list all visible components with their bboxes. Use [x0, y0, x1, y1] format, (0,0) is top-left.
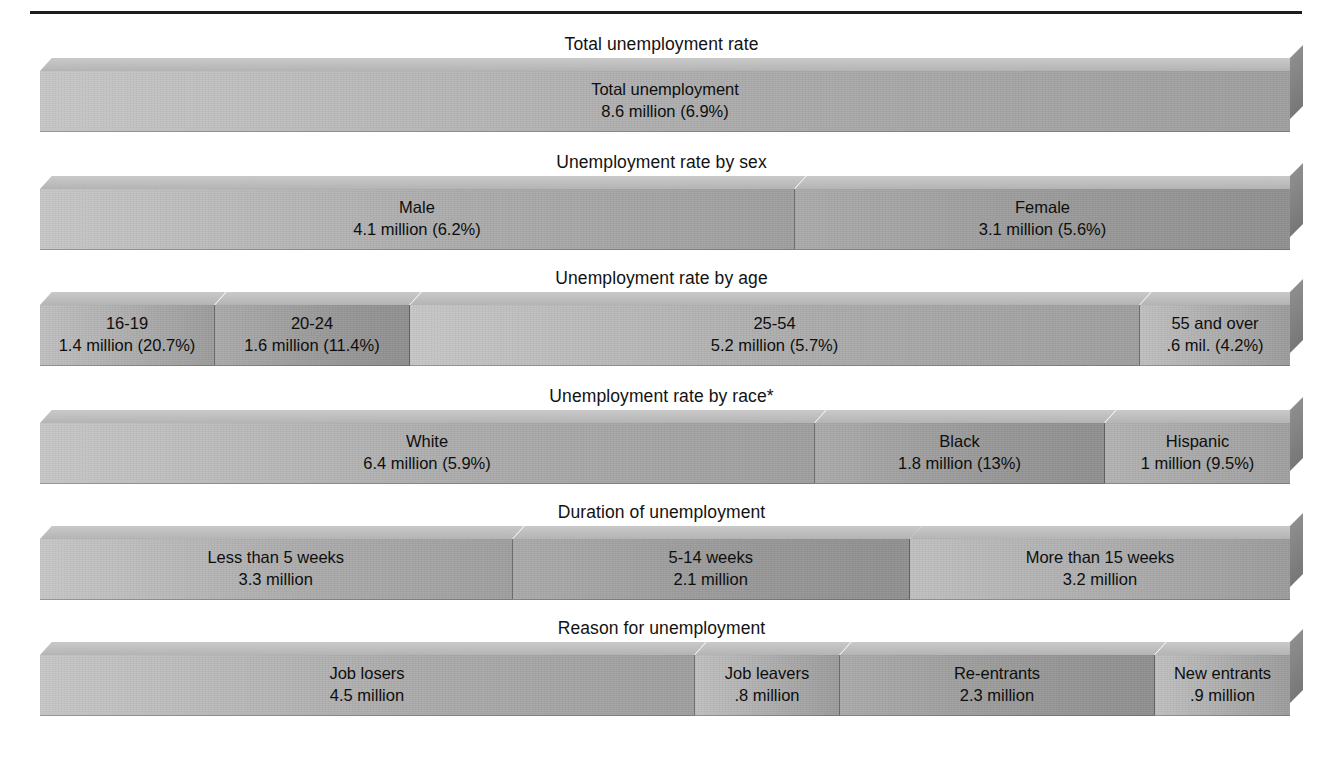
segment-label: Job leavers [695, 663, 839, 685]
bar-strip-race: White6.4 million (5.9%)Black1.8 million … [40, 410, 1290, 484]
segment-texture [40, 655, 694, 715]
segment-label: 20-24 [215, 313, 409, 335]
segment-value: .6 mil. (4.2%) [1140, 335, 1290, 357]
bar-segment-age-2[interactable]: 25-545.2 million (5.7%) [410, 305, 1140, 366]
bar-segment-race-0[interactable]: White6.4 million (5.9%) [40, 423, 815, 484]
segment-value: .9 million [1155, 685, 1290, 707]
segment-labels: 20-241.6 million (11.4%) [215, 313, 409, 357]
segment-labels: New entrants.9 million [1155, 663, 1290, 707]
segment-texture [40, 539, 512, 599]
segment-texture [1140, 305, 1290, 365]
segment-top-face [40, 58, 1302, 71]
group-title-total: Total unemployment rate [0, 34, 1323, 55]
segment-value: 1 million (9.5%) [1105, 453, 1290, 475]
segment-texture [695, 655, 839, 715]
segment-right-face [1290, 279, 1303, 353]
segment-top-face [513, 526, 921, 539]
unemployment-breakdown-figure: Total unemployment rateTotal unemploymen… [0, 0, 1323, 758]
segment-top-face [40, 526, 523, 539]
bar-group-total: Total unemployment rateTotal unemploymen… [0, 34, 1323, 134]
segment-texture [1105, 423, 1290, 483]
segment-label: Male [40, 197, 794, 219]
bar-segment-total-0[interactable]: Total unemployment8.6 million (6.9%) [40, 71, 1290, 132]
segment-top-face [40, 292, 226, 305]
bar-segment-sex-1[interactable]: Female3.1 million (5.6%) [795, 189, 1290, 250]
bar-segment-age-0[interactable]: 16-191.4 million (20.7%) [40, 305, 215, 366]
bar-strip-total: Total unemployment8.6 million (6.9%) [40, 58, 1290, 132]
segment-labels: 55 and over.6 mil. (4.2%) [1140, 313, 1290, 357]
bar-group-age: Unemployment rate by age16-191.4 million… [0, 268, 1323, 368]
bar-group-duration: Duration of unemploymentLess than 5 week… [0, 502, 1323, 602]
bar-segment-reason-1[interactable]: Job leavers.8 million [695, 655, 840, 716]
segment-top-face [410, 292, 1151, 305]
segment-texture [795, 189, 1290, 249]
bar-group-sex: Unemployment rate by sexMale4.1 million … [0, 152, 1323, 252]
bar-segment-reason-3[interactable]: New entrants.9 million [1155, 655, 1290, 716]
segment-label: Black [815, 431, 1104, 453]
segment-value: 1.6 million (11.4%) [215, 335, 409, 357]
segment-label: Less than 5 weeks [40, 547, 512, 569]
segment-labels: Re-entrants2.3 million [840, 663, 1154, 707]
group-title-age: Unemployment rate by age [0, 268, 1323, 289]
segment-label: White [40, 431, 814, 453]
segment-label: More than 15 weeks [910, 547, 1290, 569]
segment-texture [215, 305, 409, 365]
segment-value: .8 million [695, 685, 839, 707]
segment-texture [40, 71, 1290, 131]
segment-right-face [1290, 513, 1303, 587]
segment-value: 3.3 million [40, 569, 512, 591]
segment-label: Job losers [40, 663, 694, 685]
segment-labels: Black1.8 million (13%) [815, 431, 1104, 475]
segment-labels: Hispanic1 million (9.5%) [1105, 431, 1290, 475]
bar-group-reason: Reason for unemploymentJob losers4.5 mil… [0, 618, 1323, 718]
segment-right-face [1290, 45, 1303, 119]
bar-strip-duration: Less than 5 weeks3.3 million5-14 weeks2.… [40, 526, 1290, 600]
bar-segment-age-3[interactable]: 55 and over.6 mil. (4.2%) [1140, 305, 1290, 366]
bar-segment-duration-0[interactable]: Less than 5 weeks3.3 million [40, 539, 513, 600]
group-title-race: Unemployment rate by race* [0, 386, 1323, 407]
segment-value: 1.4 million (20.7%) [40, 335, 214, 357]
segment-texture [40, 423, 814, 483]
bar-segment-reason-0[interactable]: Job losers4.5 million [40, 655, 695, 716]
bar-segment-race-1[interactable]: Black1.8 million (13%) [815, 423, 1105, 484]
segment-top-face [40, 642, 706, 655]
group-title-duration: Duration of unemployment [0, 502, 1323, 523]
segment-top-face [1155, 642, 1302, 655]
segment-labels: More than 15 weeks3.2 million [910, 547, 1290, 591]
segment-texture [513, 539, 910, 599]
segment-top-face [910, 526, 1302, 539]
segment-labels: Less than 5 weeks3.3 million [40, 547, 512, 591]
group-title-sex: Unemployment rate by sex [0, 152, 1323, 173]
segment-labels: Job leavers.8 million [695, 663, 839, 707]
bar-segment-duration-1[interactable]: 5-14 weeks2.1 million [513, 539, 911, 600]
segment-labels: 5-14 weeks2.1 million [513, 547, 910, 591]
bar-segment-age-1[interactable]: 20-241.6 million (11.4%) [215, 305, 410, 366]
segment-texture [410, 305, 1139, 365]
segment-top-face [795, 176, 1302, 189]
segment-value: 4.5 million [40, 685, 694, 707]
segment-value: 6.4 million (5.9%) [40, 453, 814, 475]
bar-segment-race-2[interactable]: Hispanic1 million (9.5%) [1105, 423, 1290, 484]
segment-top-face [815, 410, 1116, 423]
segment-label: 5-14 weeks [513, 547, 910, 569]
bar-group-race: Unemployment rate by race*White6.4 milli… [0, 386, 1323, 486]
segment-labels: 16-191.4 million (20.7%) [40, 313, 214, 357]
bar-segment-sex-0[interactable]: Male4.1 million (6.2%) [40, 189, 795, 250]
segment-label: New entrants [1155, 663, 1290, 685]
segment-texture [910, 539, 1290, 599]
segment-label: Re-entrants [840, 663, 1154, 685]
segment-top-face [840, 642, 1166, 655]
segment-texture [840, 655, 1154, 715]
segment-value: 3.1 million (5.6%) [795, 219, 1290, 241]
segment-label: 55 and over [1140, 313, 1290, 335]
segment-label: 16-19 [40, 313, 214, 335]
segment-label: Female [795, 197, 1290, 219]
bar-segment-reason-2[interactable]: Re-entrants2.3 million [840, 655, 1155, 716]
segment-value: 2.1 million [513, 569, 910, 591]
segment-value: 8.6 million (6.9%) [40, 101, 1290, 123]
segment-right-face [1290, 629, 1303, 703]
segment-value: 2.3 million [840, 685, 1154, 707]
group-title-reason: Reason for unemployment [0, 618, 1323, 639]
segment-top-face [1140, 292, 1302, 305]
bar-segment-duration-2[interactable]: More than 15 weeks3.2 million [910, 539, 1290, 600]
